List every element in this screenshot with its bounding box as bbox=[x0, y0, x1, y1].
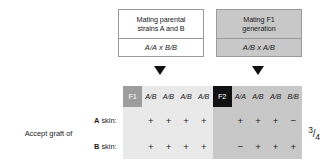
mating-f1-box: Mating F1 generation A/B x A/B bbox=[216, 9, 302, 57]
header-spacer-accept bbox=[8, 86, 89, 107]
down-arrow-icon-f1 bbox=[252, 66, 264, 75]
cell-f2-a-1: + bbox=[232, 107, 250, 133]
cell-f2-a-2: + bbox=[249, 107, 267, 133]
cell-f1-a-3: + bbox=[177, 107, 195, 133]
cell-f1-tagcol-a bbox=[123, 107, 142, 133]
genotype-header-f2-3: A/B bbox=[267, 86, 285, 107]
genotype-header-f1-1: A/B bbox=[142, 86, 160, 107]
mating-f1-title: Mating F1 generation bbox=[217, 10, 301, 38]
graft-acceptance-table: F1 A/B A/B A/B A/B F2 A/A A/B A/B B/B Ac… bbox=[8, 86, 326, 159]
genotype-header-f1-2: A/B bbox=[160, 86, 178, 107]
mating-parental-cross: A/A x B/B bbox=[119, 39, 203, 56]
mating-f1-cross: A/B x A/B bbox=[217, 39, 301, 56]
cell-f1-a-4: + bbox=[195, 107, 213, 133]
cell-f2-tagcol-a bbox=[213, 107, 232, 133]
row-header-b-skin: B skin: bbox=[89, 133, 123, 159]
cell-f1-b-1: + bbox=[142, 133, 160, 159]
genotype-header-f1-3: A/B bbox=[177, 86, 195, 107]
genotype-header-f1-4: A/B bbox=[195, 86, 213, 107]
cell-f1-a-1: + bbox=[142, 107, 160, 133]
cell-f2-b-1: − bbox=[232, 133, 250, 159]
genotype-header-f2-2: A/B bbox=[249, 86, 267, 107]
cell-f2-b-4: + bbox=[284, 133, 302, 159]
cell-f2-tagcol-b bbox=[213, 133, 232, 159]
cell-f1-b-3: + bbox=[177, 133, 195, 159]
mating-parental-box: Mating parental strains A and B A/A x B/… bbox=[118, 9, 204, 57]
cell-f2-a-3: + bbox=[267, 107, 285, 133]
mating-parental-title: Mating parental strains A and B bbox=[119, 10, 203, 38]
table-header-row: F1 A/B A/B A/B A/B F2 A/A A/B A/B B/B bbox=[8, 86, 326, 107]
fraction-denominator: 4 bbox=[315, 131, 319, 141]
generation-tag-f2: F2 bbox=[213, 86, 232, 107]
genotype-header-f2-1: A/A bbox=[232, 86, 250, 107]
cell-f1-b-2: + bbox=[160, 133, 178, 159]
header-spacer-skin bbox=[89, 86, 123, 107]
genotype-header-f2-4: B/B bbox=[284, 86, 302, 107]
down-arrow-icon-parental bbox=[154, 66, 166, 75]
cell-f1-b-4: + bbox=[195, 133, 213, 159]
cell-f2-a-4: − bbox=[284, 107, 302, 133]
cell-f2-b-3: + bbox=[267, 133, 285, 159]
row-header-a-skin: A skin: bbox=[89, 107, 123, 133]
cell-f1-tagcol-b bbox=[123, 133, 142, 159]
cell-f1-a-2: + bbox=[160, 107, 178, 133]
accept-graft-of-label: Accept graft of bbox=[8, 107, 89, 159]
generation-tag-f1: F1 bbox=[123, 86, 142, 107]
fraction-three-quarters: 3/4 bbox=[302, 107, 326, 159]
table-row: Accept graft of A skin: + + + + + + + − … bbox=[8, 107, 326, 133]
header-spacer-fraction bbox=[302, 86, 326, 107]
cell-f2-b-2: + bbox=[249, 133, 267, 159]
